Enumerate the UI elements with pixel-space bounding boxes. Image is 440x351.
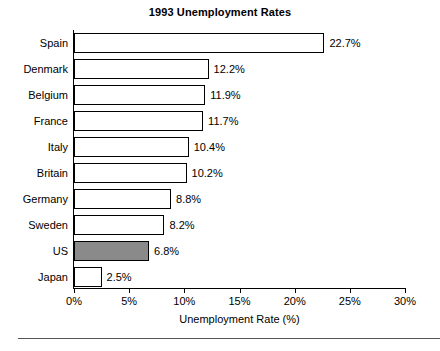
category-axis-labels: SpainDenmarkBelgiumFranceItalyBritainGer… [0, 30, 68, 288]
x-tick [405, 288, 406, 293]
x-tick-label: 5% [104, 295, 154, 307]
x-tick [350, 288, 351, 293]
x-tick-label: 0% [49, 295, 99, 307]
x-tick-label: 30% [380, 295, 430, 307]
x-tick-label: 25% [325, 295, 375, 307]
category-label-japan: Japan [2, 267, 68, 287]
bar-value-label: 10.2% [192, 165, 223, 181]
bar-value-label: 22.7% [329, 35, 360, 51]
bar-value-label: 8.2% [169, 217, 194, 233]
category-label-belgium: Belgium [2, 85, 68, 105]
x-tick-label: 10% [159, 295, 209, 307]
bar-germany [74, 189, 171, 209]
bar-france [74, 111, 203, 131]
bar-italy [74, 137, 189, 157]
category-label-us: US [2, 241, 68, 261]
category-label-germany: Germany [2, 189, 68, 209]
bar-value-label: 10.4% [194, 139, 225, 155]
unemployment-bar-chart: 1993 Unemployment Rates SpainDenmarkBelg… [0, 0, 440, 351]
bar-value-label: 11.7% [208, 113, 238, 129]
bar-value-label: 6.8% [154, 243, 179, 259]
category-label-spain: Spain [2, 33, 68, 53]
bar-denmark [74, 59, 209, 79]
x-tick [129, 288, 130, 293]
bar-value-label: 11.9% [210, 87, 240, 103]
bar-value-label: 8.8% [176, 191, 201, 207]
category-label-france: France [2, 111, 68, 131]
bar-us [74, 241, 149, 261]
x-tick [184, 288, 185, 293]
x-axis-title: Unemployment Rate (%) [74, 313, 405, 325]
bottom-rule [18, 338, 440, 339]
category-label-britain: Britain [2, 163, 68, 183]
x-tick [74, 288, 75, 293]
x-tick [240, 288, 241, 293]
bar-britain [74, 163, 187, 183]
category-label-sweden: Sweden [2, 215, 68, 235]
chart-title: 1993 Unemployment Rates [0, 6, 440, 18]
bar-belgium [74, 85, 205, 105]
bar-japan [74, 267, 102, 287]
bar-sweden [74, 215, 164, 235]
bar-value-label: 2.5% [107, 269, 132, 285]
category-label-italy: Italy [2, 137, 68, 157]
x-tick [295, 288, 296, 293]
bar-value-label: 12.2% [214, 61, 245, 77]
category-label-denmark: Denmark [2, 59, 68, 79]
plot-area: 22.7%12.2%11.9%11.7%10.4%10.2%8.8%8.2%6.… [74, 30, 405, 288]
bar-spain [74, 33, 324, 53]
x-tick-label: 20% [270, 295, 320, 307]
x-tick-label: 15% [215, 295, 265, 307]
